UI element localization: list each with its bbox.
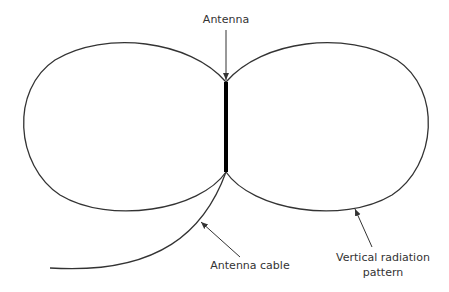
radiation-pattern-label-line2: pattern xyxy=(328,266,438,279)
left-lobe xyxy=(24,43,226,211)
radiation-pattern-diagram: Antenna Antenna cable Vertical radiation… xyxy=(0,0,449,292)
pattern-leader-arrow xyxy=(355,209,372,247)
right-lobe xyxy=(226,43,428,211)
antenna-cable-label: Antenna cable xyxy=(205,259,295,272)
radiation-pattern-label-line1: Vertical radiation xyxy=(328,251,438,264)
diagram-graphics xyxy=(0,0,449,292)
antenna-label: Antenna xyxy=(194,13,258,26)
cable-leader-arrow xyxy=(201,222,240,257)
antenna-cable xyxy=(50,172,226,269)
